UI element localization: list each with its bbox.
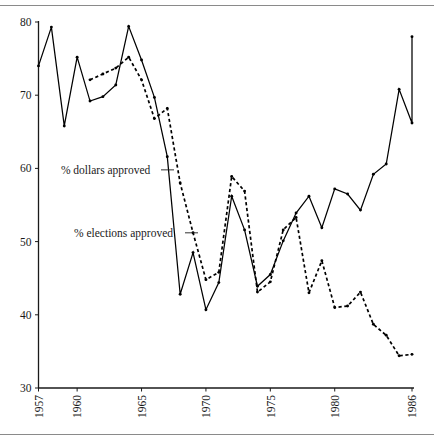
x-tick-label: 1975 [265,395,277,418]
data-point [398,88,401,91]
data-point [295,212,298,215]
data-point [359,209,362,212]
data-point [269,273,272,276]
data-point [204,308,207,311]
data-point [308,195,311,198]
data-point [346,193,349,196]
data-point [204,278,207,281]
data-point [346,305,349,308]
figure-container: 304050607080 195719601965197019751980198… [0,0,434,442]
data-point [230,195,233,198]
data-point [140,59,143,62]
data-point [89,100,92,103]
data-point [372,323,375,326]
data-point [269,280,272,283]
data-point [333,187,336,190]
data-point [411,35,414,38]
x-tick-label: 1957 [33,395,45,418]
data-point [166,107,169,110]
data-point [192,251,195,254]
data-point [333,306,336,309]
data-point [179,182,182,185]
data-point [89,78,92,81]
x-tick-label: 1986 [406,395,418,418]
data-point [385,163,388,166]
annotation-layer: % dollars approved% elections approved [61,164,198,240]
data-point [166,155,169,158]
data-point [37,64,40,67]
series-layer [37,25,413,357]
y-tick-label: 50 [20,236,32,248]
annotation-label: % dollars approved [61,164,151,177]
data-point [179,293,182,296]
series-line-elections [90,57,412,356]
x-tick-label: 1980 [329,395,341,418]
y-tick-label: 40 [20,309,32,321]
data-point [282,239,285,242]
data-point [101,95,104,98]
data-point [101,73,104,76]
x-axis: 1957196019651970197519801986 [33,388,419,418]
data-point [127,25,130,28]
x-tick-label: 1960 [71,395,83,418]
data-point [140,78,143,81]
data-point [76,56,79,59]
data-point [114,67,117,70]
x-tick-label: 1965 [136,395,148,418]
data-point [50,26,53,29]
data-point [114,84,117,87]
y-tick-label: 70 [20,89,32,101]
data-point [153,96,156,99]
data-point [243,228,246,231]
data-point [153,117,156,120]
data-point [243,190,246,193]
data-point [372,173,375,176]
annotation-label: % elections approved [74,227,173,240]
data-point [256,291,259,294]
line-chart: 304050607080 195719601965197019751980198… [0,0,434,442]
data-point [320,226,323,229]
data-point [127,56,130,59]
data-point [411,122,414,125]
x-tick-label: 1970 [200,395,212,418]
data-point [385,334,388,337]
y-tick-label: 60 [20,162,32,174]
data-point [282,228,285,231]
y-tick-label: 80 [20,16,32,28]
y-tick-label: 30 [20,382,32,394]
data-point [230,175,233,178]
data-point [308,291,311,294]
data-point [411,353,414,356]
data-point [217,271,220,274]
data-point [295,216,298,219]
data-point [63,124,66,127]
data-point [398,354,401,357]
data-point [217,281,220,284]
data-point [320,259,323,262]
data-point [359,291,362,294]
y-axis: 304050607080 [20,16,39,394]
